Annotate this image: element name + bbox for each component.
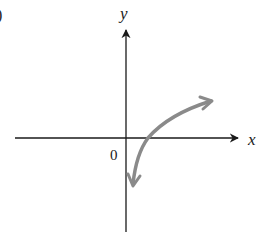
log-graph-figure: ) y x 0 bbox=[0, 0, 264, 232]
y-axis-label: y bbox=[118, 4, 128, 23]
part-label-fragment: ) bbox=[0, 6, 2, 24]
log-curve bbox=[133, 101, 211, 184]
x-axis-label: x bbox=[247, 130, 256, 149]
origin-label: 0 bbox=[110, 147, 118, 163]
